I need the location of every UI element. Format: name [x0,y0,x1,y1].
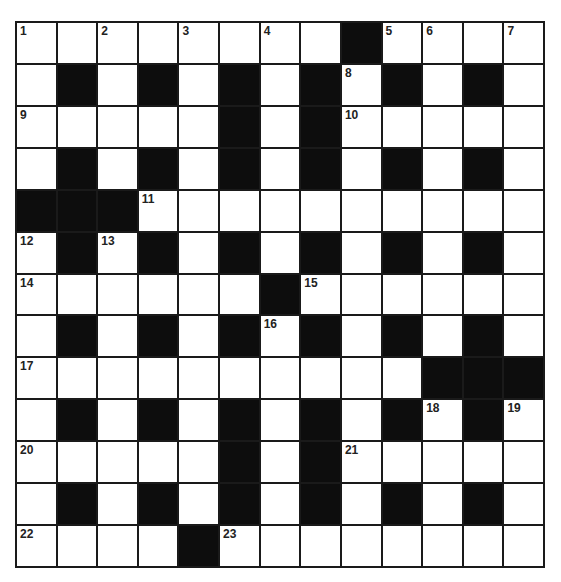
answer-cell[interactable] [383,358,422,398]
answer-cell[interactable] [179,65,218,105]
answer-cell[interactable] [98,149,137,189]
answer-cell[interactable]: 6 [423,23,462,63]
answer-cell[interactable]: 2 [98,23,137,63]
answer-cell[interactable] [342,316,381,356]
answer-cell[interactable] [98,358,137,398]
answer-cell[interactable] [179,233,218,273]
answer-cell[interactable] [464,526,503,566]
answer-cell[interactable] [261,442,300,482]
answer-cell[interactable] [17,400,56,440]
answer-cell[interactable] [423,107,462,147]
answer-cell[interactable] [179,191,218,231]
answer-cell[interactable] [58,526,97,566]
answer-cell[interactable] [464,191,503,231]
answer-cell[interactable] [342,358,381,398]
answer-cell[interactable] [179,275,218,315]
answer-cell[interactable] [464,107,503,147]
answer-cell[interactable] [504,484,543,524]
answer-cell[interactable]: 17 [17,358,56,398]
answer-cell[interactable] [342,484,381,524]
answer-cell[interactable] [504,316,543,356]
answer-cell[interactable] [301,191,340,231]
answer-cell[interactable] [98,275,137,315]
answer-cell[interactable] [383,275,422,315]
answer-cell[interactable]: 18 [423,400,462,440]
answer-cell[interactable] [423,526,462,566]
answer-cell[interactable]: 22 [17,526,56,566]
answer-cell[interactable] [58,23,97,63]
answer-cell[interactable] [179,107,218,147]
answer-cell[interactable]: 15 [301,275,340,315]
answer-cell[interactable] [301,23,340,63]
answer-cell[interactable] [58,358,97,398]
answer-cell[interactable]: 5 [383,23,422,63]
answer-cell[interactable]: 13 [98,233,137,273]
answer-cell[interactable]: 12 [17,233,56,273]
answer-cell[interactable] [423,191,462,231]
answer-cell[interactable] [342,233,381,273]
answer-cell[interactable] [504,65,543,105]
answer-cell[interactable]: 23 [220,526,259,566]
answer-cell[interactable] [504,275,543,315]
answer-cell[interactable] [139,442,178,482]
answer-cell[interactable]: 7 [504,23,543,63]
answer-cell[interactable] [423,316,462,356]
answer-cell[interactable] [423,442,462,482]
answer-cell[interactable] [261,149,300,189]
answer-cell[interactable] [179,442,218,482]
answer-cell[interactable] [261,526,300,566]
answer-cell[interactable] [17,484,56,524]
answer-cell[interactable] [342,400,381,440]
answer-cell[interactable] [58,442,97,482]
answer-cell[interactable] [504,526,543,566]
answer-cell[interactable] [261,191,300,231]
answer-cell[interactable] [423,65,462,105]
answer-cell[interactable] [301,358,340,398]
answer-cell[interactable] [261,233,300,273]
answer-cell[interactable] [139,107,178,147]
answer-cell[interactable] [423,233,462,273]
answer-cell[interactable]: 11 [139,191,178,231]
answer-cell[interactable] [504,233,543,273]
answer-cell[interactable] [220,275,259,315]
answer-cell[interactable] [17,316,56,356]
answer-cell[interactable] [98,484,137,524]
answer-cell[interactable]: 21 [342,442,381,482]
answer-cell[interactable] [179,484,218,524]
answer-cell[interactable] [179,149,218,189]
answer-cell[interactable] [504,107,543,147]
answer-cell[interactable]: 14 [17,275,56,315]
answer-cell[interactable] [261,358,300,398]
answer-cell[interactable]: 19 [504,400,543,440]
answer-cell[interactable] [179,358,218,398]
answer-cell[interactable] [98,400,137,440]
answer-cell[interactable] [383,526,422,566]
answer-cell[interactable] [383,191,422,231]
answer-cell[interactable] [98,526,137,566]
answer-cell[interactable] [504,442,543,482]
answer-cell[interactable] [383,107,422,147]
answer-cell[interactable] [342,526,381,566]
answer-cell[interactable]: 4 [261,23,300,63]
answer-cell[interactable] [423,484,462,524]
answer-cell[interactable] [504,191,543,231]
answer-cell[interactable] [261,400,300,440]
answer-cell[interactable] [342,275,381,315]
answer-cell[interactable] [139,526,178,566]
answer-cell[interactable] [98,442,137,482]
answer-cell[interactable] [98,65,137,105]
answer-cell[interactable] [220,191,259,231]
answer-cell[interactable] [261,484,300,524]
answer-cell[interactable] [261,107,300,147]
answer-cell[interactable] [423,275,462,315]
answer-cell[interactable]: 8 [342,65,381,105]
answer-cell[interactable] [464,275,503,315]
answer-cell[interactable] [383,442,422,482]
answer-cell[interactable] [58,275,97,315]
answer-cell[interactable] [17,65,56,105]
answer-cell[interactable] [179,400,218,440]
answer-cell[interactable]: 16 [261,316,300,356]
answer-cell[interactable] [261,65,300,105]
answer-cell[interactable] [139,275,178,315]
answer-cell[interactable] [179,316,218,356]
